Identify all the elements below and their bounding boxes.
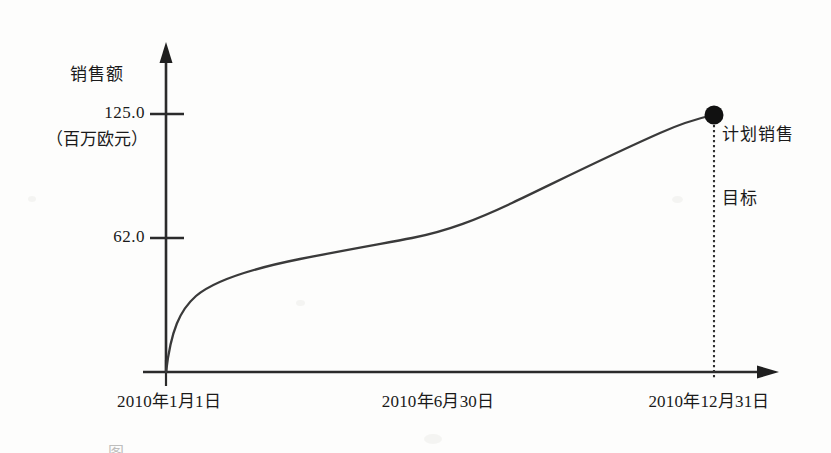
x-axis-tick-label: 2010年6月30日 <box>368 392 508 413</box>
y-axis-tick-label: 125.0 <box>55 103 145 124</box>
planned-target-annotation-line-2: 目标 <box>722 189 826 210</box>
y-axis-tick-label: 62.0 <box>55 227 145 248</box>
scan-speckle <box>28 196 36 202</box>
y-axis-title-line-2: （百万欧元） <box>38 130 156 151</box>
planned-target-annotation: 计划销售 目标 <box>722 84 826 251</box>
planned-target-annotation-line-1: 计划销售 <box>722 125 826 146</box>
scan-speckle <box>672 196 683 203</box>
x-axis-tick-label: 2010年12月31日 <box>634 392 784 413</box>
y-axis-arrowhead <box>160 42 173 63</box>
scan-speckle <box>296 300 305 306</box>
sales-curve <box>166 115 713 372</box>
figure-caption: 图 <box>108 443 768 453</box>
planned-target-marker <box>705 106 724 125</box>
x-axis-tick-label: 2010年1月1日 <box>104 392 234 413</box>
y-axis-title-line-1: 销售额 <box>38 65 156 86</box>
x-axis-arrowhead <box>757 366 779 379</box>
chart-figure: 销售额 （百万欧元） 125.0 62.0 2010年1月1日 2010年6月3… <box>0 0 831 453</box>
